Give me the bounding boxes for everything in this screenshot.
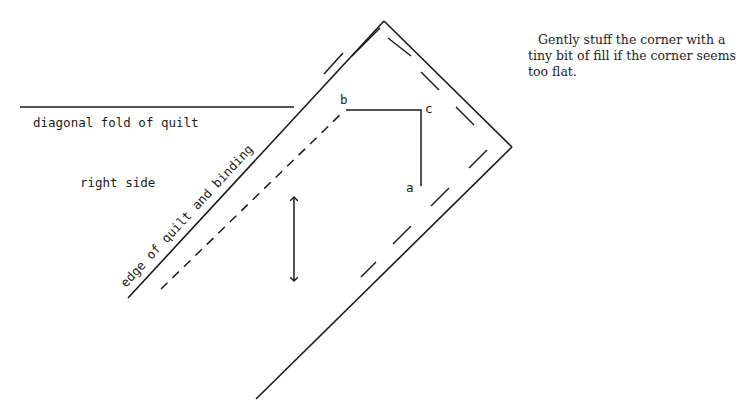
edge-label: edge of quilt and binding [117, 142, 256, 290]
quilt-stitch-line [161, 111, 344, 289]
point-c-label: c [425, 101, 433, 116]
quilt-corner-diagram: b c a diagonal fold of quilt right side … [0, 0, 744, 420]
corner-guide-bca [346, 110, 421, 186]
point-a-label: a [406, 180, 414, 195]
binding-stitch-line [324, 28, 487, 277]
right-side-label: right side [80, 175, 155, 190]
fold-label: diagonal fold of quilt [33, 115, 199, 130]
point-b-label: b [340, 92, 348, 107]
outer-edge-left [128, 21, 384, 298]
outer-edge-top-right [384, 21, 512, 147]
